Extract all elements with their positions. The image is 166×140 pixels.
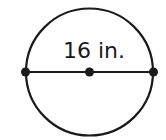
center-dot <box>85 68 94 77</box>
left-endpoint-dot <box>21 68 30 77</box>
diameter-label: 16 in. <box>63 38 125 63</box>
right-endpoint-dot <box>149 68 158 77</box>
circle-diagram: 16 in. <box>0 0 166 140</box>
